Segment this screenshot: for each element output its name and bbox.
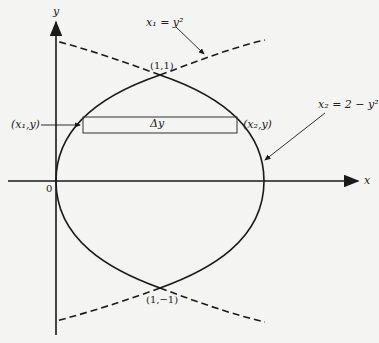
x2-equation-label: x₂ = 2 − y² xyxy=(318,98,379,111)
curve-x2-dashed-bottom xyxy=(56,288,160,321)
x-axis-label: x xyxy=(364,174,370,187)
delta-y-label: Δy xyxy=(150,117,164,130)
left-strip-point-label: (x₁,y) xyxy=(11,118,40,131)
y-axis-label: y xyxy=(53,5,59,18)
x1-label-arrow xyxy=(176,27,204,54)
curve-x2-dashed-top xyxy=(56,41,160,75)
x1-equation-lhs: x₁ xyxy=(146,16,157,29)
curve-x1-dashed-top xyxy=(160,40,265,75)
x1-equation-label: x₁ = y² xyxy=(146,16,183,29)
x2-equation-lhs: x₂ xyxy=(318,98,329,111)
x2-equation-rhs: = 2 − y² xyxy=(332,98,379,111)
bottom-intersection-label: (1,−1) xyxy=(146,294,178,305)
top-intersection-label: (1,1) xyxy=(150,60,174,71)
x1-equation-rhs: = y² xyxy=(160,16,183,29)
origin-label: 0 xyxy=(46,183,52,194)
right-strip-point-label: (x₂,y) xyxy=(243,118,272,131)
x2-label-arrow xyxy=(265,113,325,160)
